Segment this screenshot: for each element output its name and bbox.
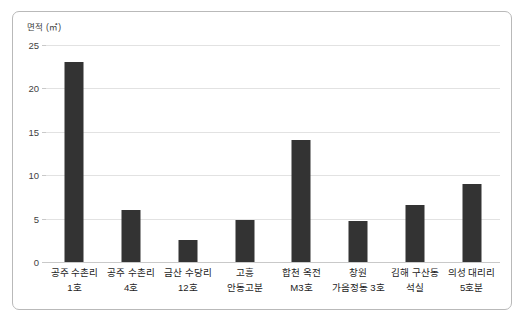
bar-group [103, 45, 160, 262]
bar-group [46, 45, 103, 262]
bar [405, 205, 424, 262]
bar [292, 140, 311, 262]
plot-area: 0510152025 [46, 45, 500, 262]
x-tick-label-line1: 의성 대리리 [448, 267, 496, 278]
bar [235, 220, 254, 262]
bar [122, 210, 141, 262]
bar-group [387, 45, 444, 262]
x-tick-label-line1: 김해 구산동 [391, 267, 439, 278]
x-tick-label-line1: 창원 [349, 267, 367, 278]
bar-group [330, 45, 387, 262]
bar [462, 184, 481, 262]
bar-group [443, 45, 500, 262]
y-tick-label: 10 [28, 170, 39, 181]
y-tick-label: 25 [28, 40, 39, 51]
x-tick-label-line1: 공주 수촌리 [107, 267, 155, 278]
y-axis-title: 면적 (㎡) [27, 20, 61, 32]
y-tick-label: 15 [28, 126, 39, 137]
x-tick-label: 의성 대리리5호분 [439, 266, 505, 295]
x-axis-tick-labels: 공주 수촌리1호공주 수촌리4호금산 수당리12호고흥안동고분합천 옥전M3호창… [46, 266, 500, 304]
y-tick-mark [42, 262, 46, 263]
bar-group [160, 45, 217, 262]
bar-group [273, 45, 330, 262]
x-tick-label-line1: 금산 수당리 [164, 267, 212, 278]
bar [65, 62, 84, 263]
x-tick-label-line1: 고흥 [236, 267, 254, 278]
x-axis-line [46, 262, 500, 263]
y-tick-label: 20 [28, 83, 39, 94]
y-tick-label: 0 [34, 257, 39, 268]
bar-series [46, 45, 500, 262]
x-tick-label-line2: 5호분 [439, 281, 505, 296]
x-tick-label-line1: 합천 옥전 [282, 267, 321, 278]
y-tick-label: 5 [34, 213, 39, 224]
x-tick-label-line1: 공주 수촌리 [51, 267, 99, 278]
bar [178, 240, 197, 262]
bar-chart-figure: 면적 (㎡) 0510152025 공주 수촌리1호공주 수촌리4호금산 수당리… [0, 0, 526, 324]
bar [349, 221, 368, 262]
bar-group [216, 45, 273, 262]
